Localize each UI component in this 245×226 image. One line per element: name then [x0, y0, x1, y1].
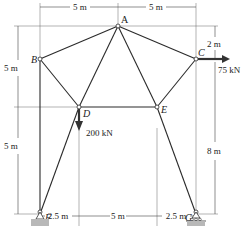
node-label-b: B	[31, 54, 37, 65]
truss-members	[40, 26, 196, 214]
member-df	[40, 107, 79, 214]
node-labels: A B C D E F G	[31, 14, 205, 223]
extension-lines	[14, 3, 218, 226]
arrow-down-icon	[75, 121, 83, 131]
joint-b	[38, 57, 42, 61]
ground-hatch	[31, 219, 49, 226]
arrow-right-icon	[222, 55, 230, 63]
ground-hatch	[187, 221, 205, 226]
dim-right-lower: 8 m	[207, 146, 221, 156]
joint-d	[77, 105, 81, 109]
joints	[38, 24, 198, 214]
member-ae	[118, 26, 157, 107]
truss-diagram: 5 m 5 m 5 m 5 m 2 m 8 m 2.5 m 5 m 2.5 m …	[0, 0, 245, 226]
load-75kn: 75 kN	[198, 55, 241, 75]
load-200kn: 200 kN	[75, 109, 113, 138]
dim-top-left: 5 m	[73, 2, 87, 12]
joint-a	[116, 24, 120, 28]
member-ac	[118, 26, 196, 59]
member-ce	[157, 59, 196, 107]
dimension-labels: 5 m 5 m 5 m 5 m 2 m 8 m 2.5 m 5 m 2.5 m	[4, 2, 221, 221]
dim-left-upper: 5 m	[4, 63, 18, 73]
dim-right-upper: 2 m	[207, 39, 221, 49]
member-bd	[40, 59, 79, 107]
node-label-e: E	[160, 104, 167, 115]
dim-bottom-middle: 5 m	[111, 211, 125, 221]
node-label-a: A	[121, 14, 129, 25]
member-eg	[157, 107, 196, 214]
dim-top-right: 5 m	[149, 2, 163, 12]
member-ab	[40, 26, 118, 59]
joint-e	[155, 105, 159, 109]
node-label-d: D	[82, 108, 91, 119]
pin-support-icon	[36, 212, 44, 219]
dim-left-lower: 5 m	[4, 141, 18, 151]
dim-bottom-right: 2.5 m	[166, 211, 187, 221]
load-label-200kn: 200 kN	[86, 128, 113, 138]
load-label-75kn: 75 kN	[218, 65, 241, 75]
node-label-c: C	[198, 47, 205, 58]
member-ad	[79, 26, 118, 107]
roller-support-icon	[192, 212, 200, 218]
